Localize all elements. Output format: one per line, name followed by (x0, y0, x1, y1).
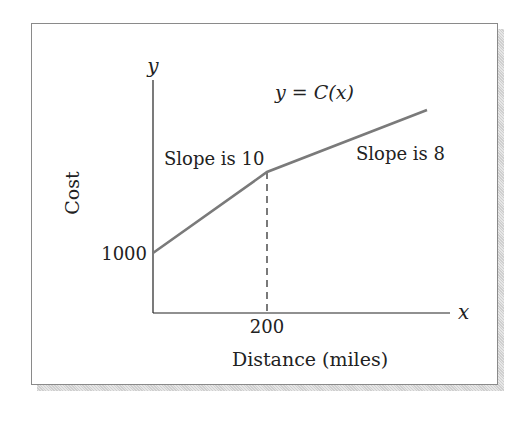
y-tick-label: 1000 (101, 243, 147, 264)
x-tick-label: 200 (250, 316, 284, 337)
y-axis-symbol: y (146, 54, 159, 78)
x-axis-symbol: x (458, 300, 469, 324)
cost-chart: y x y = C(x) Slope is 10 Slope is 8 1000… (0, 0, 528, 429)
curve-label: y = C(x) (274, 81, 354, 103)
cost-line (153, 110, 427, 253)
slope-left-label: Slope is 10 (164, 148, 264, 169)
slope-right-label: Slope is 8 (356, 143, 445, 164)
x-axis-title: Distance (miles) (232, 348, 388, 370)
y-axis-title: Cost (61, 171, 83, 215)
